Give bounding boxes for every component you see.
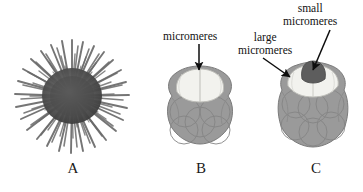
label-small-micromeres: small micromeres (283, 2, 337, 27)
panel-c-embryo (272, 52, 354, 154)
label-small-micromeres-line1: small (283, 2, 337, 15)
embryo-c-small-micromeres (302, 61, 326, 83)
panel-letter-c: C (301, 160, 331, 177)
label-micromeres-text: micromeres (163, 30, 217, 42)
panel-a-sea-urchin (8, 36, 138, 156)
label-large-micromeres: large micromeres (238, 31, 292, 56)
label-large-micromeres-line2: micromeres (238, 44, 292, 57)
panel-letter-a: A (58, 160, 88, 177)
sea-urchin-illustration (8, 36, 138, 156)
embryo-b-micromeres (176, 69, 223, 102)
embryo-c-illustration (272, 52, 354, 154)
figure-sea-urchin-development: micromeres large micromeres small microm… (0, 0, 363, 192)
urchin-body-icon (42, 68, 102, 124)
embryo-b-illustration (160, 52, 240, 152)
label-small-micromeres-line2: micromeres (283, 15, 337, 28)
label-micromeres: micromeres (163, 30, 217, 43)
panel-letter-b: B (186, 160, 216, 177)
panel-b-embryo (160, 52, 240, 152)
label-large-micromeres-line1: large (238, 31, 292, 44)
